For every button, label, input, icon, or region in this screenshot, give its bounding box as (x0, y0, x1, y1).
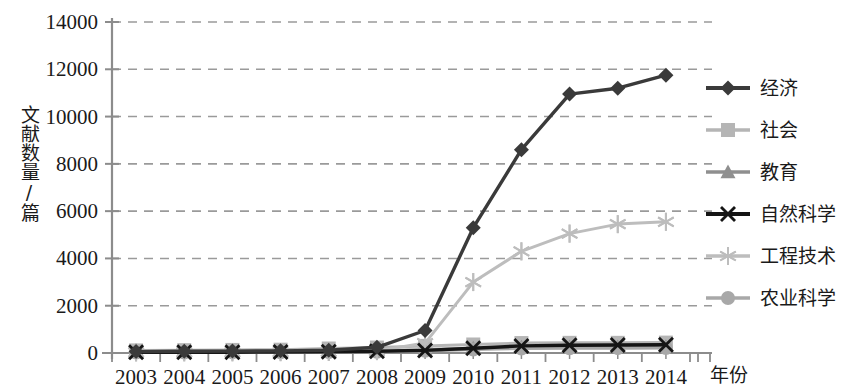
data-point-marker (610, 81, 625, 96)
legend-label: 农业科学 (760, 287, 836, 309)
x-tick-label: 2004 (163, 365, 206, 389)
x-tick-label: 2009 (404, 365, 446, 389)
y-tick-label: 12000 (46, 57, 99, 81)
chart-container: 文献数量/篇 02000400060008000100001200014000 … (0, 0, 846, 392)
legend-label: 经济 (760, 77, 798, 99)
data-point-marker (721, 291, 735, 305)
x-tick-label: 2011 (501, 365, 542, 389)
y-tick-label: 4000 (56, 246, 98, 270)
y-tick-label: 0 (88, 341, 99, 365)
y-tick-label: 2000 (56, 294, 98, 318)
legend-item-0[interactable]: 经济 (706, 77, 798, 99)
y-tick-label: 10000 (46, 105, 99, 129)
y-tick-label: 6000 (56, 199, 98, 223)
y-axis-tick-labels: 02000400060008000100001200014000 (46, 10, 99, 365)
data-point-marker (721, 81, 736, 96)
chart-legend: 经济社会教育自然科学工程技术农业科学 (706, 77, 836, 309)
x-axis-tick-labels: 2003200420052006200720082009201020112012… (115, 365, 687, 389)
legend-item-1[interactable]: 社会 (706, 119, 798, 141)
series-line (136, 222, 666, 353)
legend-item-3[interactable]: 自然科学 (706, 203, 836, 225)
x-tick-label: 2005 (211, 365, 253, 389)
y-tick-label: 8000 (56, 152, 98, 176)
x-tick-label: 2008 (356, 365, 398, 389)
x-tick-label: 2010 (452, 365, 494, 389)
legend-label: 自然科学 (760, 203, 836, 225)
legend-label: 工程技术 (760, 245, 836, 267)
x-tick-label: 2007 (308, 365, 350, 389)
x-tick-label: 2006 (260, 365, 302, 389)
legend-item-4[interactable]: 工程技术 (706, 245, 836, 267)
data-series-layer (128, 68, 673, 362)
line-chart: 02000400060008000100001200014000 2003200… (0, 0, 846, 392)
grid-lines (112, 22, 712, 306)
series-0 (129, 68, 674, 359)
x-tick-label: 2012 (549, 365, 591, 389)
x-tick-label: 2014 (645, 365, 688, 389)
legend-label: 教育 (760, 161, 798, 183)
legend-label: 社会 (760, 119, 798, 141)
x-axis-title: 年份 (710, 364, 748, 386)
data-point-marker (721, 123, 735, 137)
x-tick-label: 2013 (597, 365, 639, 389)
legend-item-2[interactable]: 教育 (706, 161, 798, 183)
y-tick-label: 14000 (46, 10, 99, 34)
legend-item-5[interactable]: 农业科学 (706, 287, 836, 309)
data-point-marker (514, 342, 528, 356)
x-tick-label: 2003 (115, 365, 157, 389)
